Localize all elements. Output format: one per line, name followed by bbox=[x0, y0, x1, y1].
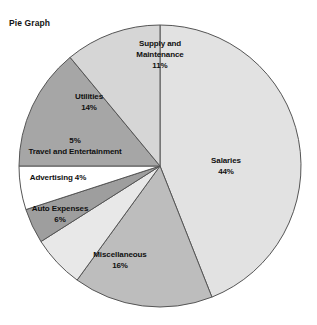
pie-chart-figure: Pie Graph Supply and Maintenance 11% Uti… bbox=[0, 0, 317, 325]
slice-label-line: 44% bbox=[198, 166, 254, 177]
slice-label-advertising: Advertising 4% bbox=[16, 172, 100, 183]
slice-label-line: Maintenance bbox=[122, 49, 198, 60]
slice-label-travel-and-entertainment: 5% Travel and Entertainment bbox=[14, 135, 136, 157]
slice-label-line: Travel and Entertainment bbox=[14, 146, 136, 157]
slice-label-auto-expenses: Auto Expenses 6% bbox=[24, 203, 96, 225]
slice-label-line: Auto Expenses bbox=[24, 203, 96, 214]
slice-label-line: 11% bbox=[122, 60, 198, 71]
slice-label-line: Supply and bbox=[122, 38, 198, 49]
slice-label-utilities: Utilities 14% bbox=[60, 91, 118, 113]
slice-label-miscellaneous: Miscellaneous 16% bbox=[80, 249, 160, 271]
slice-label-salaries: Salaries 44% bbox=[198, 155, 254, 177]
slice-label-line: Utilities bbox=[60, 91, 118, 102]
slice-label-line: 14% bbox=[60, 102, 118, 113]
slice-label-line: 5% bbox=[14, 135, 136, 146]
slice-label-line: Miscellaneous bbox=[80, 249, 160, 260]
slice-label-line: Salaries bbox=[198, 155, 254, 166]
slice-label-line: 16% bbox=[80, 260, 160, 271]
slice-label-line: Advertising 4% bbox=[16, 172, 100, 183]
slice-label-line: 6% bbox=[24, 214, 96, 225]
slice-label-supply-and-maintenance: Supply and Maintenance 11% bbox=[122, 38, 198, 71]
